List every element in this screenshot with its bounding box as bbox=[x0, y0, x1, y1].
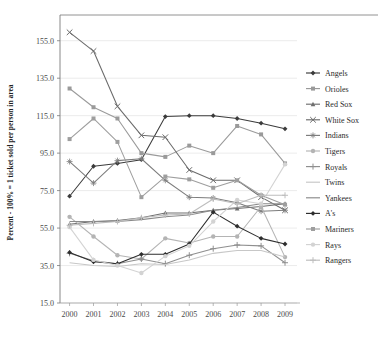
legend-label: Royals bbox=[325, 163, 347, 172]
data-point-marker bbox=[311, 227, 315, 231]
data-point-marker bbox=[163, 175, 167, 179]
y-tick-label-115.0: 115.0 bbox=[36, 112, 54, 121]
data-point-marker bbox=[91, 258, 95, 262]
legend-label: Orioles bbox=[325, 85, 349, 94]
chart-background bbox=[0, 0, 383, 347]
data-point-marker bbox=[92, 105, 96, 109]
y-tick-label-135.0: 135.0 bbox=[36, 74, 54, 83]
data-point-marker bbox=[67, 215, 71, 219]
data-point-marker bbox=[187, 244, 191, 248]
line-chart: 15.035.055.075.095.0115.0135.0155.0 2000… bbox=[0, 0, 383, 347]
data-point-marker bbox=[92, 116, 96, 120]
data-point-marker bbox=[283, 162, 287, 166]
y-tick-label-15.0: 15.0 bbox=[40, 299, 54, 308]
legend-label: Red Sox bbox=[325, 100, 352, 109]
legend-label: White Sox bbox=[325, 116, 359, 125]
data-point-marker bbox=[187, 177, 191, 181]
legend-label: Mariners bbox=[325, 225, 354, 234]
y-axis-title-text: Percent - 100% = 1 ticket sold per perso… bbox=[6, 84, 15, 240]
data-point-marker bbox=[283, 203, 287, 207]
data-point-marker bbox=[235, 124, 239, 128]
data-point-marker bbox=[139, 271, 143, 275]
data-point-marker bbox=[115, 263, 119, 267]
x-tick-label-2001: 2001 bbox=[86, 310, 102, 319]
data-point-marker bbox=[235, 234, 239, 238]
data-point-marker bbox=[68, 137, 72, 141]
x-tick-label-2007: 2007 bbox=[229, 310, 245, 319]
y-tick-label-55.0: 55.0 bbox=[40, 224, 54, 233]
data-point-marker bbox=[259, 132, 263, 136]
data-point-marker bbox=[163, 254, 167, 258]
x-tick-label-2004: 2004 bbox=[157, 310, 173, 319]
data-point-marker bbox=[91, 234, 95, 238]
legend-label: Indians bbox=[325, 131, 349, 140]
x-tick-label-2005: 2005 bbox=[181, 310, 197, 319]
data-point-marker bbox=[139, 195, 143, 199]
data-point-marker bbox=[211, 234, 215, 238]
x-tick-label-2008: 2008 bbox=[253, 310, 269, 319]
y-tick-label-35.0: 35.0 bbox=[40, 262, 54, 271]
y-tick-label-95.0: 95.0 bbox=[40, 149, 54, 158]
y-tick-label-75.0: 75.0 bbox=[40, 187, 54, 196]
x-tick-label-2000: 2000 bbox=[62, 310, 78, 319]
legend-label: Yankees bbox=[325, 194, 352, 203]
data-point-marker bbox=[311, 87, 315, 91]
data-point-marker bbox=[211, 186, 215, 190]
y-tick-label-155.0: 155.0 bbox=[36, 37, 54, 46]
x-tick-label-2009: 2009 bbox=[277, 310, 293, 319]
data-point-marker bbox=[115, 116, 119, 120]
data-point-marker bbox=[211, 219, 215, 223]
data-point-marker bbox=[139, 151, 143, 155]
data-point-marker bbox=[235, 178, 239, 182]
data-point-marker bbox=[163, 236, 167, 240]
legend-label: Angels bbox=[325, 69, 348, 78]
data-point-marker bbox=[187, 144, 191, 148]
legend-label: Rays bbox=[325, 241, 341, 250]
data-point-marker bbox=[211, 151, 215, 155]
data-point-marker bbox=[311, 242, 315, 246]
x-tick-label-2006: 2006 bbox=[205, 310, 221, 319]
chart-canvas: 15.035.055.075.095.0115.0135.0155.0 2000… bbox=[0, 0, 383, 347]
data-point-marker bbox=[115, 140, 119, 144]
legend-label: A's bbox=[325, 209, 335, 218]
data-point-marker bbox=[311, 149, 315, 153]
y-axis-title: Percent - 100% = 1 ticket sold per perso… bbox=[6, 84, 15, 240]
data-point-marker bbox=[68, 87, 72, 91]
data-point-marker bbox=[115, 253, 119, 257]
legend-label: Rangers bbox=[325, 256, 351, 265]
x-tick-label-2003: 2003 bbox=[133, 310, 149, 319]
legend-label: Twins bbox=[325, 178, 344, 187]
data-point-marker bbox=[259, 202, 263, 206]
data-point-marker bbox=[163, 155, 167, 159]
legend-label: Tigers bbox=[325, 147, 345, 156]
x-tick-label-2002: 2002 bbox=[109, 310, 125, 319]
